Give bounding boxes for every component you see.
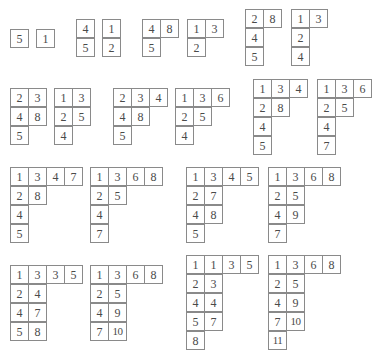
young-tableau: 1342845: [253, 79, 307, 155]
tableau-cell: 5: [186, 312, 205, 331]
young-tableau: 132: [187, 19, 223, 57]
tableau-row: 11: [268, 331, 340, 350]
tableau-cell: 7: [28, 303, 47, 322]
young-tableau: 485: [142, 19, 178, 57]
tableau-cell: 3: [286, 167, 305, 186]
tableau-cell: 6: [211, 88, 230, 107]
tableau-row: 2: [291, 28, 327, 47]
tableau-cell: 5: [193, 107, 212, 126]
tableau-row: 48: [142, 19, 178, 38]
tableau-row: 1: [36, 29, 54, 48]
tableau-cell: 4: [186, 293, 205, 312]
tableau-row: 44: [186, 293, 258, 312]
tableau-cell: 7: [64, 167, 83, 186]
tableau-cell: 4: [204, 293, 223, 312]
tableau-row: 4: [90, 205, 162, 224]
tableau-cell: 8: [144, 167, 163, 186]
tableau-cell: 8: [322, 167, 341, 186]
tableau-cell: 8: [160, 19, 179, 38]
tableau-cell: 6: [304, 255, 323, 274]
tableau-row: 1368: [90, 265, 162, 284]
tableau-row: 7: [268, 224, 340, 243]
tableau-cell: 2: [10, 88, 29, 107]
tableau-cell: 9: [286, 205, 305, 224]
tableau-cell: 1: [291, 9, 310, 28]
tableau-cell: 2: [268, 186, 287, 205]
tableau-cell: 9: [108, 303, 127, 322]
tableau-cell: 3: [193, 88, 212, 107]
tableau-cell: 2: [317, 98, 336, 117]
tableau-cell: 5: [10, 29, 29, 48]
tableau-cell: 2: [268, 274, 287, 293]
tableau-cell: 3: [271, 79, 290, 98]
tableau-row: 4: [10, 205, 82, 224]
tableau-cell: 3: [108, 265, 127, 284]
tableau-cell: 1: [186, 255, 205, 274]
tableau-row: 25: [54, 107, 90, 126]
tableau-cell: 4: [175, 126, 194, 145]
tableau-row: 27: [186, 186, 258, 205]
tableau-row: 25: [268, 274, 340, 293]
tableau-cell: 5: [72, 107, 91, 126]
tableau-cell: 2: [102, 38, 121, 57]
tableau-cell: 11: [268, 331, 287, 350]
tableau-row: 8: [186, 331, 258, 350]
tableau-cell: 8: [28, 107, 47, 126]
tableau-cell: 4: [10, 303, 29, 322]
tableau-cell: 7: [317, 136, 336, 155]
tableau-cell: 8: [322, 255, 341, 274]
tableau-cell: 3: [286, 255, 305, 274]
young-tableau: 136825497: [268, 167, 340, 243]
tableau-cell: 2: [245, 9, 264, 28]
tableau-row: 49: [268, 293, 340, 312]
tableau-row: 47: [10, 303, 82, 322]
young-tableau: 23485: [10, 88, 46, 145]
tableau-cell: 1: [253, 79, 272, 98]
tableau-cell: 4: [268, 205, 287, 224]
tableau-row: 25: [268, 186, 340, 205]
tableau-row: 28: [253, 98, 307, 117]
tableau-cell: 3: [72, 88, 91, 107]
tableau-row: 136: [317, 79, 371, 98]
tableau-cell: 3: [204, 167, 223, 186]
tableau-cell: 8: [271, 98, 290, 117]
tableau-cell: 1: [268, 167, 287, 186]
tableau-row: 4: [291, 47, 327, 66]
tableau-row: 4: [175, 126, 229, 145]
tableau-row: 5: [10, 126, 46, 145]
tableau-row: 5: [76, 38, 94, 57]
tableau-cell: 2: [90, 186, 109, 205]
tableau-row: 5: [186, 224, 258, 243]
tableau-cell: 5: [10, 322, 29, 341]
young-tableau: 1335244758: [10, 265, 82, 341]
tableau-row: 710: [268, 312, 340, 331]
tableau-cell: 4: [142, 19, 161, 38]
young-tableau: 1324: [291, 9, 327, 66]
tableau-cell: 1: [268, 255, 287, 274]
tableau-row: 1368: [268, 255, 340, 274]
tableau-row: 136: [175, 88, 229, 107]
tableau-row: 1: [102, 19, 120, 38]
tableau-cell: 7: [204, 312, 223, 331]
tableau-cell: 4: [10, 205, 29, 224]
young-tableau: 13682547: [90, 167, 162, 243]
tableau-cell: 2: [186, 186, 205, 205]
young-tableau: 2845: [245, 9, 281, 66]
tableau-cell: 3: [131, 88, 150, 107]
tableau-row: 1347: [10, 167, 82, 186]
tableau-cell: 3: [222, 255, 241, 274]
tableau-row: 48: [10, 107, 46, 126]
tableau-row: 4: [54, 126, 90, 145]
young-tableau: 12: [102, 19, 120, 57]
tableau-cell: 2: [90, 284, 109, 303]
tableau-row: 49: [90, 303, 162, 322]
tableau-row: 1368: [90, 167, 162, 186]
tableau-row: 5: [113, 126, 167, 145]
tableau-row: 5: [10, 29, 28, 48]
tableau-cell: 2: [291, 28, 310, 47]
tableau-cell: 5: [253, 136, 272, 155]
tableau-cell: 8: [186, 331, 205, 350]
tableau-cell: 1: [90, 167, 109, 186]
tableau-row: 13: [54, 88, 90, 107]
tableau-cell: 2: [253, 98, 272, 117]
